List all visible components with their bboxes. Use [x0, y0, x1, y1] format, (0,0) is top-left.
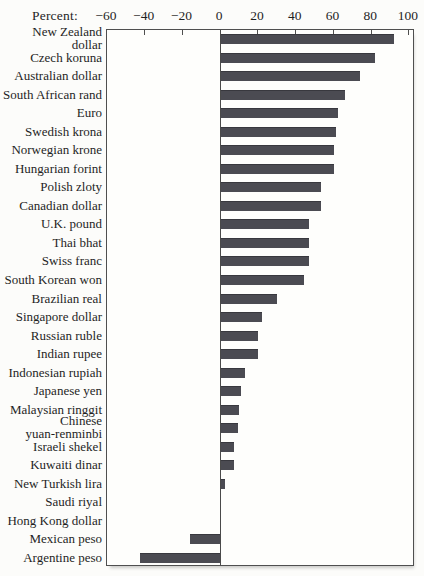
x-tick-label-60: 60: [326, 8, 340, 24]
category-label-canadian-dollar: Canadian dollar: [19, 198, 102, 211]
category-label-norwegian-krone: Norwegian krone: [11, 143, 102, 156]
category-label-indian-rupee: Indian rupee: [37, 347, 102, 360]
bar-south-african-rand: [221, 90, 346, 100]
bar-u-k-pound: [221, 219, 310, 229]
category-label-hungarian-forint: Hungarian forint: [15, 161, 102, 174]
axis-unit-label: Percent:: [32, 8, 78, 24]
category-label-saudi-riyal: Saudi riyal: [45, 495, 102, 508]
currency-change-bar-chart: Percent: −60−40−20020406080100 New Zeala…: [0, 0, 424, 576]
x-tick-mark--20: [182, 30, 183, 35]
category-label-new-turkish-lira: New Turkish lira: [14, 476, 102, 489]
category-label-thai-bhat: Thai bhat: [53, 235, 102, 248]
bar-swiss-franc: [221, 256, 310, 266]
category-label-indonesian-rupiah: Indonesian rupiah: [8, 365, 102, 378]
category-label-israeli-shekel: Israeli shekel: [33, 439, 102, 452]
category-label-polish-zloty: Polish zloty: [40, 180, 102, 193]
bar-israeli-shekel: [221, 442, 234, 452]
x-tick-label--40: −40: [133, 8, 154, 24]
bar-russian-ruble: [221, 331, 259, 341]
category-label-russian-ruble: Russian ruble: [31, 328, 102, 341]
bar-australian-dollar: [221, 71, 361, 81]
plot-area: [106, 29, 414, 566]
bar-czech-koruna: [221, 53, 376, 63]
category-label-singapore-dollar: Singapore dollar: [16, 310, 102, 323]
bar-euro: [221, 108, 338, 118]
bar-argentine-peso: [140, 553, 219, 563]
bar-brazilian-real: [221, 294, 278, 304]
x-tick-label-0: 0: [216, 8, 223, 24]
bar-swedish-krona: [221, 127, 336, 137]
bar-indian-rupee: [221, 349, 259, 359]
category-label-argentine-peso: Argentine peso: [23, 550, 102, 563]
bar-hungarian-forint: [221, 164, 334, 174]
category-label-mexican-peso: Mexican peso: [29, 532, 102, 545]
category-label-brazilian-real: Brazilian real: [32, 291, 102, 304]
bar-norwegian-krone: [221, 145, 334, 155]
bar-japanese-yen: [221, 386, 241, 396]
bar-thai-bhat: [221, 238, 310, 248]
x-tick-label-100: 100: [398, 8, 418, 24]
category-label-czech-koruna: Czech koruna: [30, 50, 102, 63]
bar-new-turkish-lira: [221, 479, 226, 489]
x-tick-mark--40: [144, 30, 145, 35]
bar-kuwaiti-dinar: [221, 460, 234, 470]
x-tick-label-80: 80: [363, 8, 377, 24]
category-label-japanese-yen: Japanese yen: [34, 384, 102, 397]
x-tick-label--20: −20: [171, 8, 192, 24]
bar-south-korean-won: [221, 275, 304, 285]
bar-singapore-dollar: [221, 312, 263, 322]
category-label-swedish-krona: Swedish krona: [25, 124, 102, 137]
category-label-swiss-franc: Swiss franc: [42, 254, 102, 267]
bar-indonesian-rupiah: [221, 368, 246, 378]
category-label-kuwaiti-dinar: Kuwaiti dinar: [30, 458, 102, 471]
bar-new-zealand-dollar: [221, 34, 395, 44]
category-label-chinese-yuan-renminbi: Chinese yuan-renminbi: [25, 414, 102, 440]
category-label-new-zealand-dollar: New Zealand dollar: [0, 25, 102, 51]
bar-mexican-peso: [190, 534, 220, 544]
x-tick-mark-100: [408, 30, 409, 35]
bar-canadian-dollar: [221, 201, 321, 211]
x-tick-label-40: 40: [288, 8, 302, 24]
bar-malaysian-ringgit: [221, 405, 239, 415]
category-label-u-k-pound: U.K. pound: [41, 217, 102, 230]
category-label-australian-dollar: Australian dollar: [14, 69, 102, 82]
category-label-euro: Euro: [77, 106, 102, 119]
category-label-hong-kong-dollar: Hong Kong dollar: [7, 513, 102, 526]
bar-polish-zloty: [221, 182, 321, 192]
bar-chinese-yuan-renminbi: [221, 423, 238, 433]
x-tick-label-20: 20: [250, 8, 264, 24]
category-label-south-african-rand: South African rand: [3, 87, 102, 100]
category-label-south-korean-won: South Korean won: [5, 272, 103, 285]
x-tick-label--60: −60: [95, 8, 116, 24]
